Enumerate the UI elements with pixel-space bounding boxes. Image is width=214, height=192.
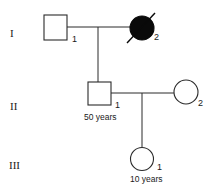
female-circle-icon [174,80,198,104]
individual-ii-1: 1 50 years [84,82,120,122]
generation-label-iii: III [9,159,20,171]
age-label: 10 years [130,174,163,184]
individual-i-1: 1 [44,15,77,44]
individual-number: 1 [72,34,77,44]
male-square-icon [44,15,67,40]
age-label: 50 years [84,112,117,122]
individual-iii-1: 1 10 years [130,148,163,185]
individual-number: 1 [157,162,162,172]
pedigree-diagram: I II III 1 2 1 50 years 2 1 10 years [0,0,214,192]
individual-number: 2 [154,32,159,42]
individual-ii-2: 2 [174,80,203,108]
individual-number: 1 [115,100,120,110]
individual-number: 2 [198,98,203,108]
generation-label-i: I [10,27,14,39]
generation-label-ii: II [10,100,18,112]
individual-i-2: 2 [127,13,159,43]
female-circle-icon [131,148,154,171]
male-square-icon [88,82,111,105]
